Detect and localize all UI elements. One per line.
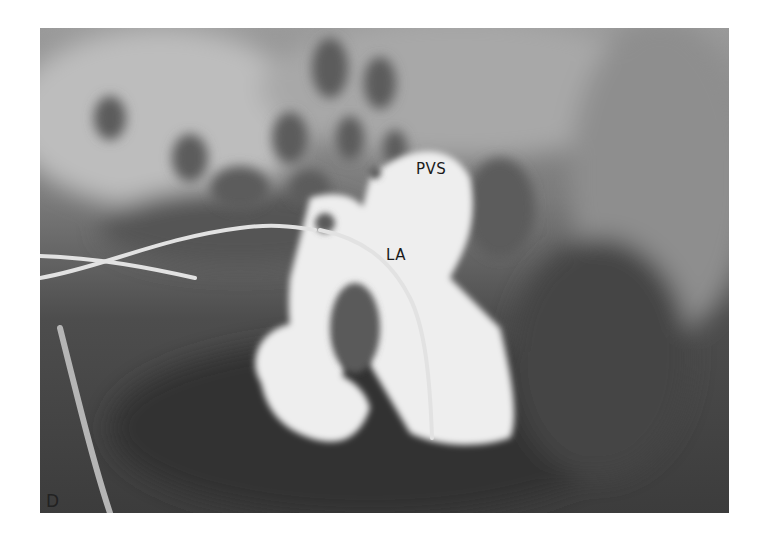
radiograph-image [40,28,729,513]
angiogram-illustration [40,28,729,513]
pvs-label: PVS [416,162,446,177]
panel-label: D [46,493,59,510]
la-label: LA [386,248,406,263]
